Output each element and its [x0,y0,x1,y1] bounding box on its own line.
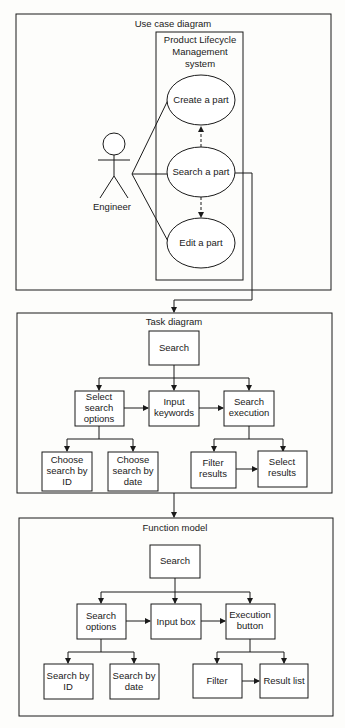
task-diagram: Task diagram Search Select search option… [17,313,332,493]
task-input-keywords-l1: Input [163,396,184,407]
function-title: Function model [143,522,208,533]
task-choose-date-l1: Choose [117,454,150,465]
function-search-options-l1: Search [86,610,116,621]
use-case-diagram: Use case diagram Product Lifecycle Manag… [16,14,331,290]
task-input-keywords-l2: keywords [154,407,194,418]
function-search-by-date-l1: Search by [113,670,156,681]
use-case-search-label: Search a part [172,166,229,177]
function-search-by-id-l2: ID [63,681,73,692]
task-filter-results-l1: Filter [202,457,223,468]
function-filter-label: Filter [206,675,227,686]
task-search-execution-l1: Search [234,396,264,407]
task-select-options-l1: Select [86,391,113,402]
function-search-options-l2: options [86,621,117,632]
function-execution-button-l1: Execution [229,609,271,620]
actor-icon [98,133,130,198]
function-result-list-label: Result list [263,675,305,686]
function-search-by-date-l2: date [125,681,144,692]
task-root-label: Search [159,342,189,353]
task-choose-id-l3: ID [62,476,72,487]
use-case-title: Use case diagram [135,18,212,29]
use-case-create-label: Create a part [173,94,229,105]
system-label-1: Product Lifecycle [164,34,236,45]
task-choose-id-l2: search by [46,465,87,476]
diagram-canvas: Use case diagram Product Lifecycle Manag… [0,0,345,728]
task-choose-date-l3: date [124,476,143,487]
function-input-box-label: Input box [156,616,195,627]
task-title: Task diagram [146,316,203,327]
task-filter-results-l2: results [199,468,227,479]
function-search-by-id-l1: Search by [47,670,90,681]
task-search-execution-l2: execution [229,407,270,418]
function-root-label: Search [160,555,190,566]
task-select-options-l3: options [84,413,115,424]
use-case-edit-label: Edit a part [179,237,223,248]
task-select-results-l2: results [268,467,296,478]
function-execution-button-l2: button [237,620,263,631]
task-choose-date-l2: search by [112,465,153,476]
task-select-results-l1: Select [269,456,296,467]
function-model: Function model Search Search options Inp… [19,518,333,716]
system-label-2: Management [172,46,228,57]
task-choose-id-l1: Choose [51,454,84,465]
system-label-3: system [185,58,215,69]
actor-label: Engineer [93,201,131,212]
task-select-options-l2: search [85,402,114,413]
